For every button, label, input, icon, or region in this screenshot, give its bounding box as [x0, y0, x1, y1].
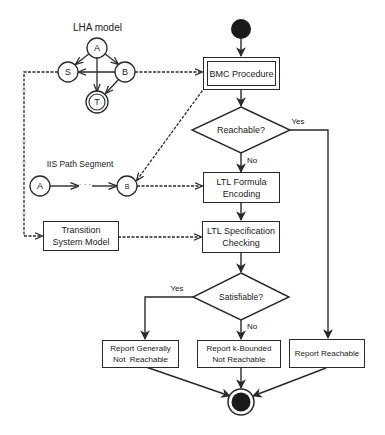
report-generally-not-reachable-box: Report Generally Not Reachable: [102, 340, 179, 368]
ltl-spec-line1: LTL Specification: [207, 225, 275, 237]
lha-to-transition-connector: [24, 72, 58, 236]
reachable-no-label: No: [244, 155, 260, 166]
report-kbounded-line1: Report k-Bounded: [207, 343, 272, 354]
ltl-formula-encoding-box: LTL Formula Encoding: [203, 172, 280, 203]
reachable-label: Reachable?: [211, 125, 271, 136]
lha-state-s-label: S: [58, 62, 78, 82]
ltl-spec-line2: Checking: [222, 237, 260, 249]
lha-state-t-label: T: [87, 92, 107, 112]
end-node: [228, 389, 254, 415]
lha-state-a-label: A: [87, 38, 107, 58]
satisfiable-no-label: No: [244, 321, 260, 332]
report-general-line1: Report Generally: [110, 343, 170, 354]
bmc-procedure-box: BMC Procedure: [203, 57, 280, 90]
lha-model-title: LHA model: [70, 22, 125, 33]
report-general-line2: Not Reachable: [113, 354, 168, 365]
transition-system-model-box: Transition System Model: [43, 221, 119, 251]
report-k-bounded-not-reachable-box: Report k-Bounded Not Reachable: [197, 340, 281, 368]
ltl-formula-line1: LTL Formula: [216, 176, 266, 188]
bmc-procedure-label: BMC Procedure: [209, 68, 273, 80]
ltl-formula-line2: Encoding: [223, 188, 261, 200]
iis-ellipsis: · · ·: [76, 179, 94, 190]
satisfiable-label: Satisfiable?: [208, 292, 274, 303]
reachable-yes-label: Yes: [289, 116, 307, 127]
ltl-specification-checking-box: LTL Specification Checking: [202, 221, 280, 253]
transition-system-line1: Transition: [61, 224, 100, 236]
iis-state-a-label: A: [30, 176, 50, 196]
transition-system-line2: System Model: [52, 236, 109, 248]
report-reachable-label: Report Reachable: [295, 348, 359, 360]
start-node: [231, 19, 251, 39]
report-kbounded-line2: Not Reachable: [213, 354, 266, 365]
satisfiable-yes-label: Yes: [168, 283, 186, 294]
bmc-to-iis-connector: [137, 87, 205, 180]
iis-state-b-label: B: [117, 176, 137, 196]
report-reachable-box: Report Reachable: [289, 339, 365, 368]
iis-path-title: IIS Path Segment: [40, 159, 120, 170]
lha-state-b-label: B: [115, 62, 135, 82]
lha-model-graph: [76, 53, 119, 93]
